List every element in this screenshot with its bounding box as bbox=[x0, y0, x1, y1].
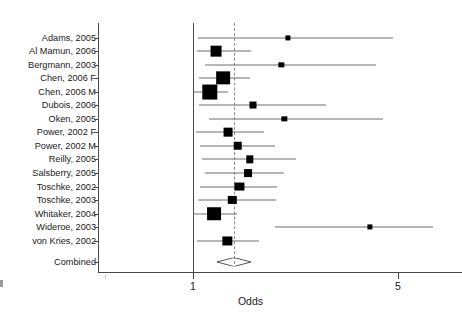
forest-plot: Adams, 2005Al Mamun, 2006Bergmann, 2003C… bbox=[0, 0, 462, 313]
y-axis-tick bbox=[94, 78, 98, 79]
x-axis-tick-label: 1 bbox=[190, 280, 196, 292]
y-axis-tick bbox=[94, 119, 98, 120]
point-estimate-marker bbox=[228, 196, 236, 204]
point-estimate-marker bbox=[207, 207, 221, 221]
point-estimate-marker bbox=[367, 225, 372, 230]
x-axis-tick bbox=[398, 273, 399, 279]
study-label: Bergmann, 2003 bbox=[28, 60, 96, 70]
point-estimate-marker bbox=[233, 142, 242, 151]
point-estimate-marker bbox=[249, 102, 256, 109]
study-label: Whitaker, 2004 bbox=[35, 209, 96, 219]
y-axis-tick bbox=[94, 173, 98, 174]
point-estimate-marker bbox=[285, 35, 290, 40]
null-line bbox=[193, 23, 194, 272]
combined-label: Combined bbox=[54, 257, 96, 267]
study-label: Toschke, 2003 bbox=[37, 195, 96, 205]
y-axis-tick bbox=[94, 51, 98, 52]
point-estimate-marker bbox=[224, 128, 233, 137]
x-axis-tick bbox=[193, 273, 194, 279]
study-label: Salsberry, 2005 bbox=[32, 168, 96, 178]
y-axis-line bbox=[98, 23, 99, 272]
combined-diamond bbox=[217, 258, 251, 267]
study-label: Adams, 2005 bbox=[42, 33, 96, 43]
confidence-interval-line bbox=[197, 51, 251, 52]
x-axis-minor-tick bbox=[105, 275, 106, 279]
study-label: Power, 2002 F bbox=[37, 127, 96, 137]
point-estimate-marker bbox=[202, 84, 217, 99]
y-axis-tick bbox=[94, 38, 98, 39]
point-estimate-marker bbox=[223, 236, 232, 245]
confidence-interval-line bbox=[205, 64, 376, 65]
study-label: Reilly, 2005 bbox=[49, 154, 96, 164]
confidence-interval-line bbox=[275, 227, 434, 228]
point-estimate-marker bbox=[235, 182, 244, 191]
point-estimate-marker bbox=[246, 156, 253, 163]
confidence-interval-line bbox=[198, 37, 393, 38]
y-axis-tick bbox=[94, 227, 98, 228]
confidence-interval-line bbox=[209, 118, 384, 119]
point-estimate-marker bbox=[282, 116, 287, 121]
study-label: Chen, 2006 M bbox=[38, 87, 96, 97]
point-estimate-marker bbox=[211, 46, 222, 57]
study-label-column: Adams, 2005Al Mamun, 2006Bergmann, 2003C… bbox=[0, 0, 96, 313]
y-axis-tick bbox=[94, 200, 98, 201]
point-estimate-marker bbox=[244, 169, 252, 177]
study-label: Dubois, 2006 bbox=[42, 100, 96, 110]
study-label: Toschke, 2002 bbox=[37, 182, 96, 192]
study-label: Oken, 2005 bbox=[48, 114, 96, 124]
study-label: Al Mamun, 2006 bbox=[29, 46, 96, 56]
y-axis-tick bbox=[94, 187, 98, 188]
y-axis-tick bbox=[94, 241, 98, 242]
point-estimate-marker bbox=[279, 62, 284, 67]
y-axis-tick-combined bbox=[94, 262, 98, 263]
y-axis-tick bbox=[94, 214, 98, 215]
y-axis-tick bbox=[94, 132, 98, 133]
confidence-interval-line bbox=[199, 105, 326, 106]
x-axis-line bbox=[98, 272, 462, 273]
study-label: Power, 2002 M bbox=[35, 141, 96, 151]
y-axis-tick bbox=[94, 146, 98, 147]
x-axis-tick-label: 5 bbox=[395, 280, 401, 292]
y-axis-tick bbox=[94, 65, 98, 66]
y-axis-tick bbox=[94, 159, 98, 160]
study-label: von Kries, 2002 bbox=[32, 236, 96, 246]
y-axis-tick bbox=[94, 92, 98, 93]
y-axis-tick bbox=[94, 105, 98, 106]
x-axis-title: Odds bbox=[238, 295, 263, 307]
study-label: Wideroe, 2003 bbox=[36, 222, 96, 232]
study-label: Chen, 2006 F bbox=[40, 73, 96, 83]
point-estimate-marker bbox=[217, 71, 231, 84]
confidence-interval-line bbox=[198, 200, 276, 201]
